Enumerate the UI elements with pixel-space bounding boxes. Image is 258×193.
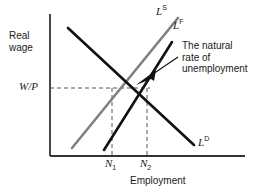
labour-supply-curve	[72, 18, 178, 148]
n2-axis-marker: N2	[140, 158, 151, 169]
natural-rate-annotation-line1: The natural	[182, 40, 248, 52]
guide-lines-group	[50, 88, 150, 156]
y-axis-label-line2: wage	[9, 42, 33, 54]
x-axis-label: Employment	[130, 175, 186, 186]
axes-group	[50, 14, 245, 156]
y-axis-label-line1: Real	[9, 30, 33, 42]
labour-supply-curve-label: LS	[156, 6, 167, 17]
labor-market-diagram: Real wage W/P LS LF LD N1 N2 Employment …	[0, 0, 258, 193]
diagram-canvas	[0, 0, 258, 193]
labour-force-curve-label-sup: F	[179, 18, 183, 25]
n1-axis-marker: N1	[105, 158, 116, 169]
labour-demand-curve-label-sup: D	[204, 135, 209, 142]
labour-force-curve-label: LF	[173, 20, 183, 31]
wp-axis-marker: W/P	[19, 81, 38, 92]
n1-label-sub: 1	[112, 164, 116, 171]
natural-rate-annotation-line2: rate of	[182, 52, 248, 64]
n2-label-sub: 2	[147, 164, 151, 171]
labour-supply-curve-label-sup: S	[162, 4, 167, 11]
natural-rate-annotation-line3: unemployment	[182, 63, 248, 75]
labour-demand-curve	[68, 28, 194, 145]
y-axis-label: Real wage	[9, 30, 33, 54]
natural-rate-annotation: The natural rate of unemployment	[182, 40, 248, 75]
curves-group	[68, 18, 194, 150]
labour-demand-curve-label: LD	[198, 137, 209, 148]
